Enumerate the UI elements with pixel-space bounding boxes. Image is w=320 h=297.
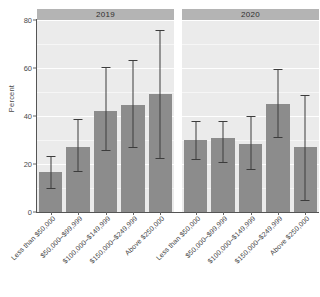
y-tick-mark-40 bbox=[33, 116, 36, 117]
error-bar-cap-lower bbox=[128, 147, 137, 148]
error-bar-cap-upper bbox=[128, 60, 137, 61]
error-bar-line bbox=[195, 122, 196, 160]
error-bar-cap-lower bbox=[156, 158, 165, 159]
error-bar-line bbox=[50, 157, 51, 189]
error-bar-cap-lower bbox=[273, 137, 282, 138]
y-tick-mark-20 bbox=[33, 164, 36, 165]
error-bar-line bbox=[277, 70, 278, 137]
error-bar-line bbox=[250, 117, 251, 170]
error-bar-cap-lower bbox=[191, 159, 200, 160]
error-bar-cap-upper bbox=[246, 116, 255, 117]
error-bar-line bbox=[223, 122, 224, 163]
error-bar-cap-upper bbox=[273, 69, 282, 70]
facet-strip-2020: 2020 bbox=[182, 9, 319, 20]
error-bar-line bbox=[78, 120, 79, 173]
y-tick-label-20: 20 bbox=[14, 160, 32, 169]
error-bar-cap-upper bbox=[74, 119, 83, 120]
error-bar-cap-lower bbox=[219, 162, 228, 163]
y-tick-mark-60 bbox=[33, 68, 36, 69]
x-tick-label-text: $150,000–$249,999 bbox=[233, 215, 283, 265]
error-bar bbox=[245, 20, 257, 212]
error-bar-line bbox=[305, 96, 306, 202]
error-bar-cap-lower bbox=[74, 171, 83, 172]
facet-strip-label: 2020 bbox=[241, 10, 260, 19]
error-bar-cap-upper bbox=[219, 121, 228, 122]
y-tick-label-0: 0 bbox=[14, 208, 32, 217]
y-tick-mark-80 bbox=[33, 20, 36, 21]
y-tick-label-60: 60 bbox=[14, 64, 32, 73]
error-bar bbox=[154, 20, 166, 212]
y-tick-label-80: 80 bbox=[14, 16, 32, 25]
facet-strip-label: 2019 bbox=[96, 10, 115, 19]
error-bar bbox=[217, 20, 229, 212]
error-bar-line bbox=[160, 31, 161, 159]
error-bar bbox=[299, 20, 311, 212]
error-bar bbox=[45, 20, 57, 212]
error-bar-cap-lower bbox=[246, 169, 255, 170]
error-bar-cap-upper bbox=[156, 30, 165, 31]
error-bar bbox=[127, 20, 139, 212]
error-bar-cap-upper bbox=[46, 156, 55, 157]
error-bar-line bbox=[105, 68, 106, 151]
error-bar bbox=[100, 20, 112, 212]
error-bar-cap-upper bbox=[101, 67, 110, 68]
panel-2019 bbox=[37, 20, 174, 212]
error-bar-cap-upper bbox=[191, 121, 200, 122]
error-bar-cap-lower bbox=[46, 188, 55, 189]
error-bar bbox=[190, 20, 202, 212]
facet-strip-2019: 2019 bbox=[37, 9, 174, 20]
error-bar-line bbox=[132, 61, 133, 149]
panel-2020 bbox=[182, 20, 319, 212]
error-bar bbox=[272, 20, 284, 212]
bar-chart: Percent 020406080 2019Less than $50,000$… bbox=[0, 0, 320, 297]
error-bar-cap-upper bbox=[301, 95, 310, 96]
error-bar bbox=[72, 20, 84, 212]
x-tick-label-text: $150,000–$249,999 bbox=[88, 215, 138, 265]
y-tick-label-40: 40 bbox=[14, 112, 32, 121]
error-bar-cap-lower bbox=[101, 150, 110, 151]
error-bar-cap-lower bbox=[301, 200, 310, 201]
y-tick-mark-0 bbox=[33, 212, 36, 213]
